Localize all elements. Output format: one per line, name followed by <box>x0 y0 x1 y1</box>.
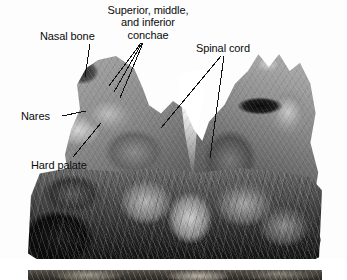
label-conchae: Superior, middle, and inferior conchae <box>98 4 198 41</box>
specimen-fibre-texture <box>28 168 322 259</box>
label-conchae-line-1: Superior, middle, <box>98 4 198 16</box>
label-conchae-line-2: and inferior <box>98 16 198 28</box>
label-nasal-bone: Nasal bone <box>40 30 95 42</box>
anatomy-figure: Nasal bone Superior, middle, and inferio… <box>0 0 347 280</box>
adjacent-photograph-strip <box>28 270 322 280</box>
label-spinal-cord: Spinal cord <box>196 42 250 54</box>
label-conchae-line-3: conchae <box>98 29 198 41</box>
strip-fibre-texture <box>28 270 322 280</box>
label-nares: Nares <box>21 110 50 122</box>
label-hard-palate: Hard palate <box>31 159 87 171</box>
